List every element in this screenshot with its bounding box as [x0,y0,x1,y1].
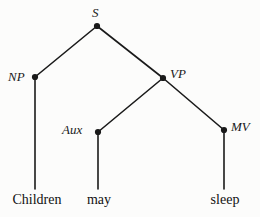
node-dot-aux [95,129,101,135]
node-dot-vp [160,75,166,81]
node-label-mv: MV [231,120,250,133]
node-dot-s [94,23,100,29]
node-label-vp: VP [170,67,186,80]
branch-lines [35,26,224,132]
edge-s-np [35,26,97,77]
node-label-s: S [92,6,99,19]
leaf-word-children: Children [13,193,62,207]
node-dot-mv [221,127,227,133]
edge-vp-mv [163,78,224,130]
node-label-np: NP [8,70,25,83]
node-dots [32,23,227,135]
node-label-aux: Aux [62,123,82,136]
node-dot-np [32,74,38,80]
tree-lines-svg [0,0,260,217]
syntax-tree-diagram: S NP VP Aux MV Children may sleep [0,0,260,217]
leaf-word-may: may [87,193,111,207]
leaf-word-sleep: sleep [211,193,240,207]
edge-vp-aux [98,78,163,132]
edge-s-vp [97,26,163,78]
